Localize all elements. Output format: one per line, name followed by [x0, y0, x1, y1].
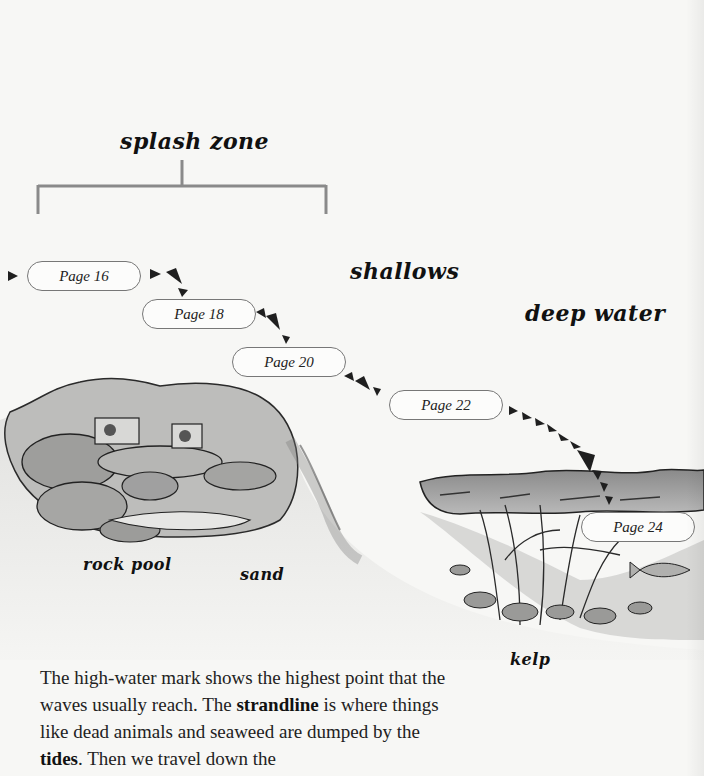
sand-label: sand [240, 565, 284, 584]
page-16-link[interactable]: Page 16 [27, 261, 141, 291]
term-strandline: strandline [236, 694, 318, 715]
page-edge-shadow [686, 0, 704, 776]
deep-water-label: deep water [525, 300, 665, 326]
shallows-label: shallows [350, 258, 459, 284]
splash-zone-label: splash zone [120, 128, 269, 154]
page-20-link[interactable]: Page 20 [232, 347, 346, 377]
body-text-3: . Then we travel down the [78, 748, 276, 769]
body-paragraph: The high-water mark shows the highest po… [40, 664, 460, 772]
splash-zone-bracket [30, 160, 336, 216]
page-22-link[interactable]: Page 22 [389, 390, 503, 420]
kelp-label: kelp [510, 650, 551, 669]
rock-pool-label: rock pool [83, 555, 172, 574]
page-18-link[interactable]: Page 18 [142, 299, 256, 329]
page-24-link[interactable]: Page 24 [581, 512, 695, 542]
book-page: splash zone shallows deep water rock poo… [0, 0, 704, 776]
term-tides: tides [40, 748, 78, 769]
